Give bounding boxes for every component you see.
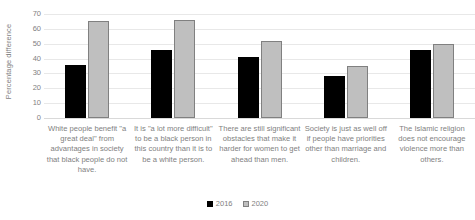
bar-2020-2 bbox=[261, 41, 282, 118]
y-axis-tick: 10 bbox=[33, 99, 41, 107]
bar-2020-0 bbox=[88, 21, 109, 118]
plot-area bbox=[44, 14, 475, 119]
bar-2016-4 bbox=[410, 50, 431, 118]
bar-group bbox=[216, 14, 302, 118]
bars-layer bbox=[44, 14, 475, 118]
bar-group bbox=[130, 14, 216, 118]
legend-swatch-icon bbox=[207, 201, 213, 207]
plot-wrapper: 706050403020100 bbox=[18, 14, 475, 122]
x-axis-label-2: There are still significant obstacles th… bbox=[216, 124, 302, 192]
legend-item-2016[interactable]: 2016 bbox=[207, 199, 233, 208]
x-axis-label-3: Society is just as well off if people ha… bbox=[303, 124, 389, 192]
legend-label: 2016 bbox=[216, 199, 233, 208]
y-axis-tick: 60 bbox=[33, 25, 41, 33]
y-axis-tick: 30 bbox=[33, 70, 41, 78]
legend-item-2020[interactable]: 2020 bbox=[243, 199, 269, 208]
y-axis-title-text: Percentage difference bbox=[5, 23, 14, 98]
legend-label: 2020 bbox=[252, 199, 269, 208]
x-axis-category-labels: White people benefit "a great deal" from… bbox=[44, 124, 475, 192]
bar-group bbox=[303, 14, 389, 118]
x-axis-label-0: White people benefit "a great deal" from… bbox=[44, 124, 130, 192]
bar-2016-1 bbox=[151, 50, 172, 118]
bar-group bbox=[389, 14, 475, 118]
x-axis-label-4: The Islamic religion does not encourage … bbox=[389, 124, 475, 192]
y-axis-tick: 20 bbox=[33, 85, 41, 93]
y-axis-tick: 0 bbox=[37, 114, 41, 122]
bar-2020-1 bbox=[174, 20, 195, 118]
y-axis-tick: 50 bbox=[33, 40, 41, 48]
x-axis-label-1: It is "a lot more difficult" to be a bla… bbox=[130, 124, 216, 192]
y-axis-tick: 70 bbox=[33, 10, 41, 18]
bar-2020-4 bbox=[433, 44, 454, 118]
y-axis-tick-labels: 706050403020100 bbox=[18, 14, 44, 122]
legend-swatch-icon bbox=[243, 201, 249, 207]
y-axis-tick: 40 bbox=[33, 55, 41, 63]
bar-group bbox=[44, 14, 130, 118]
y-axis-title: Percentage difference bbox=[0, 0, 18, 122]
bar-2016-2 bbox=[238, 57, 259, 118]
bar-chart: Percentage difference 706050403020100 Wh… bbox=[0, 0, 475, 220]
bar-2020-3 bbox=[347, 66, 368, 118]
bar-2016-3 bbox=[324, 76, 345, 118]
chart-legend: 20162020 bbox=[0, 199, 475, 208]
bar-2016-0 bbox=[65, 65, 86, 118]
